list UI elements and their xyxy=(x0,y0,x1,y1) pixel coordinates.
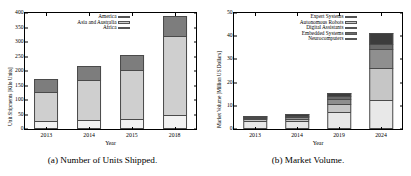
bar-segment-asia-and-australia xyxy=(120,70,144,118)
y-tick-mark xyxy=(25,56,28,57)
legend-swatch xyxy=(118,27,130,30)
bar-segment-asia-and-australia xyxy=(77,80,101,120)
y-tick-mark xyxy=(25,13,28,14)
x-tick-mark xyxy=(339,127,340,130)
x-tick-mark xyxy=(175,127,176,130)
x-tick-label: 2013 xyxy=(249,132,261,138)
y-tick-mark xyxy=(400,36,403,37)
bar-2024[interactable] xyxy=(369,33,393,129)
bar-segment-neurocomputers xyxy=(369,33,393,45)
x-tick-mark xyxy=(255,127,256,130)
y-axis-label-b: Market Volume [Million US Dollars] xyxy=(216,51,222,128)
y-tick-mark xyxy=(25,27,28,28)
bar-segment-autonomous-robots xyxy=(369,68,393,100)
bar-segment-america xyxy=(163,16,187,36)
y-tick-label: 300 xyxy=(15,39,23,45)
bar-2015[interactable] xyxy=(120,55,144,129)
x-axis-label-a: Year xyxy=(24,140,197,146)
y-tick-label: 20 xyxy=(227,80,233,86)
legend-label: Africa xyxy=(103,25,117,31)
y-tick-mark xyxy=(25,42,28,43)
y-tick-label: 150 xyxy=(15,83,23,89)
y-tick-mark xyxy=(25,85,28,86)
y-tick-mark xyxy=(194,129,197,130)
x-tick-label: 2014 xyxy=(291,132,303,138)
y-tick-mark xyxy=(194,13,197,14)
bar-segment-asia-and-australia xyxy=(34,92,58,120)
legend-swatch xyxy=(345,16,357,19)
legend-item[interactable]: Neurocomputers xyxy=(235,36,357,42)
y-tick-label: 0 xyxy=(230,126,233,132)
x-axis-label-b: Year xyxy=(233,140,403,146)
y-tick-mark xyxy=(400,13,403,14)
x-tick-mark xyxy=(89,127,90,130)
y-tick-label: 250 xyxy=(15,54,23,60)
x-tick-mark xyxy=(175,13,176,16)
y-tick-mark xyxy=(194,85,197,86)
legend: Expert SystemsAutonomous RobotsDigital A… xyxy=(235,14,357,42)
bar-segment-america xyxy=(34,79,58,92)
bar-segment-expert-systems xyxy=(369,100,393,129)
y-tick-mark xyxy=(25,129,28,130)
y-axis-label-a: Unit Shipments [Kilo Units] xyxy=(7,67,13,126)
x-tick-mark xyxy=(132,127,133,130)
y-tick-mark xyxy=(234,82,237,83)
plot-area-b: Market Volume [Million US Dollars] 01020… xyxy=(205,0,411,148)
x-tick-mark xyxy=(297,127,298,130)
bar-2018[interactable] xyxy=(163,16,187,129)
plot-area-a: Unit Shipments [Kilo Units] 050100150200… xyxy=(0,0,205,148)
x-tick-label: 2024 xyxy=(375,132,387,138)
x-tick-label: 2013 xyxy=(41,132,53,138)
legend-label: Neurocomputers xyxy=(308,36,343,42)
legend: AmericaAsia and AustraliaAfrica xyxy=(30,14,130,31)
y-tick-mark xyxy=(194,100,197,101)
x-tick-label: 2018 xyxy=(169,132,181,138)
x-tick-label: 2019 xyxy=(333,132,345,138)
bar-2019[interactable] xyxy=(327,93,351,129)
y-tick-label: 400 xyxy=(15,10,23,16)
y-tick-label: 40 xyxy=(227,33,233,39)
y-tick-label: 50 xyxy=(18,112,24,118)
panel-market-volume: Market Volume [Million US Dollars] 01020… xyxy=(205,0,411,176)
y-tick-mark xyxy=(234,59,237,60)
y-tick-mark xyxy=(400,105,403,106)
y-tick-mark xyxy=(400,59,403,60)
legend-swatch xyxy=(118,21,130,24)
y-tick-mark xyxy=(194,114,197,115)
bar-segment-digital-assistants xyxy=(369,49,393,68)
bar-2013[interactable] xyxy=(34,79,58,129)
y-tick-mark xyxy=(400,82,403,83)
y-tick-mark xyxy=(194,27,197,28)
panel-caption-a: (a) Number of Units Shipped. xyxy=(0,155,205,165)
bar-segment-america xyxy=(120,55,144,70)
y-tick-label: 30 xyxy=(227,57,233,63)
legend-item[interactable]: Africa xyxy=(30,25,130,31)
figure-row: Unit Shipments [Kilo Units] 050100150200… xyxy=(0,0,411,176)
legend-swatch xyxy=(345,27,357,30)
y-tick-label: 0 xyxy=(21,126,24,132)
legend-swatch xyxy=(345,38,357,41)
x-tick-mark xyxy=(46,127,47,130)
y-tick-label: 200 xyxy=(15,68,23,74)
y-tick-mark xyxy=(194,56,197,57)
legend-swatch xyxy=(345,32,357,35)
bar-segment-asia-and-australia xyxy=(163,36,187,115)
legend-swatch xyxy=(345,21,357,24)
y-tick-mark xyxy=(194,71,197,72)
bar-segment-autonomous-robots xyxy=(327,104,351,112)
bar-2014[interactable] xyxy=(77,66,101,129)
x-tick-label: 2015 xyxy=(126,132,138,138)
y-tick-label: 10 xyxy=(227,103,233,109)
panel-units-shipped: Unit Shipments [Kilo Units] 050100150200… xyxy=(0,0,205,176)
y-tick-mark xyxy=(194,42,197,43)
x-tick-mark xyxy=(381,13,382,16)
y-tick-mark xyxy=(234,105,237,106)
x-tick-mark xyxy=(132,13,133,16)
legend-swatch xyxy=(118,16,130,19)
x-tick-label: 2014 xyxy=(83,132,95,138)
x-tick-mark xyxy=(381,127,382,130)
y-tick-mark xyxy=(25,100,28,101)
bar-segment-america xyxy=(77,66,101,80)
y-tick-mark xyxy=(25,114,28,115)
y-tick-mark xyxy=(25,71,28,72)
